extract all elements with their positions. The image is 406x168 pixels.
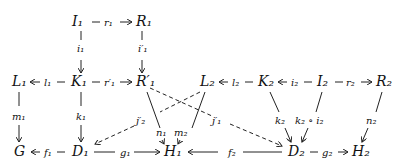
node-L1: L₁ xyxy=(11,73,27,89)
node-D2: D₂ xyxy=(287,143,305,159)
label-k2i2: k₂ ∘ i₂ xyxy=(295,115,324,126)
label-l2: l₂ xyxy=(232,77,239,88)
label-m1: m₁ xyxy=(12,111,26,122)
edge-k2-line xyxy=(270,92,279,112)
edge-k2i2-arrow xyxy=(302,128,308,142)
node-G: G xyxy=(14,143,25,159)
node-I1: I₁ xyxy=(71,13,83,29)
label-g2: g₂ xyxy=(322,147,332,158)
edge-n2-arrow xyxy=(362,128,368,142)
edge-n2-line xyxy=(376,92,382,112)
label-m2: m₂ xyxy=(174,127,188,138)
node-K2: K₂ xyxy=(257,73,274,89)
node-H2: H₂ xyxy=(351,143,370,159)
label-j1p: j′₁ xyxy=(210,115,221,126)
commutative-diagram: I₁ r₁ R₁ i₁ i′₁ L₁ l₁ K₁ r′₁ R′₁ L₂ l₂ K… xyxy=(0,0,406,168)
node-R2: R₂ xyxy=(375,73,393,89)
node-D1: D₁ xyxy=(71,143,89,159)
node-R1p: R′₁ xyxy=(135,73,155,89)
label-i1: i₁ xyxy=(77,43,84,54)
label-f1: f₁ xyxy=(43,147,52,158)
label-i2: i₂ xyxy=(291,77,298,88)
label-g1: g₁ xyxy=(120,147,130,158)
node-R1: R₁ xyxy=(135,13,152,29)
label-i1p: i′₁ xyxy=(138,43,147,54)
label-f2: f₂ xyxy=(227,147,236,158)
label-j2p: j′₂ xyxy=(134,115,145,126)
label-n1: n₁ xyxy=(156,127,166,138)
edge-j1p-lower xyxy=(230,124,282,146)
edge-m2-line xyxy=(192,92,205,128)
edge-j2p-lower xyxy=(95,126,134,144)
node-K1: K₁ xyxy=(70,73,87,89)
label-k1: k₁ xyxy=(76,111,86,122)
node-L2: L₂ xyxy=(199,73,215,89)
label-n2: n₂ xyxy=(366,115,376,126)
label-k2: k₂ xyxy=(275,115,285,126)
edge-k2-arrow xyxy=(285,128,291,142)
edge-n1-line xyxy=(147,92,160,128)
label-l1: l₁ xyxy=(44,77,51,88)
label-r2: r₂ xyxy=(346,77,355,88)
node-I2: I₂ xyxy=(316,73,329,89)
node-H1: H₁ xyxy=(163,143,182,159)
edge-k2i2-line xyxy=(316,92,322,112)
label-r1: r₁ xyxy=(104,17,113,28)
label-r1p: r′₁ xyxy=(104,77,115,88)
